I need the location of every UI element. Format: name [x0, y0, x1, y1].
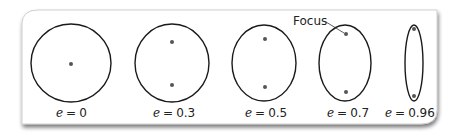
- focus-dot: [170, 40, 174, 44]
- focus-dot: [263, 85, 267, 89]
- focus-dot: [344, 90, 348, 94]
- eccentricity-diagram: Focus e=0 e=0.3 e=0.5 e=0.7 e=0.96: [0, 0, 458, 137]
- focus-dot: [263, 37, 267, 41]
- focus-dot: [170, 83, 174, 87]
- focus-dot: [69, 62, 73, 66]
- focus-dot: [412, 94, 416, 98]
- focus-dot: [412, 27, 416, 31]
- focus-dot: [344, 32, 348, 36]
- label-e-0: e=0: [56, 106, 87, 120]
- focus-label: Focus: [293, 14, 327, 28]
